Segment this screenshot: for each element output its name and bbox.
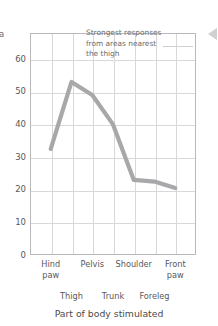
y-tick-label: 10 xyxy=(2,218,26,227)
annotation-line-3: the thigh xyxy=(86,49,186,60)
x-tick-label: Foreleg xyxy=(133,291,177,302)
x-tick-label: Hindpaw xyxy=(29,259,73,280)
annotation-strongest-responses: Strongest responses from areas nearest t… xyxy=(86,28,186,60)
chart-figure: a 0102030405060 Strongest responses from… xyxy=(0,0,218,326)
x-tick-label: Frontpaw xyxy=(153,259,197,280)
y-axis-label-clipped: a xyxy=(0,26,9,42)
x-tick-label: Pelvis xyxy=(70,259,114,270)
annotation-line-1: Strongest responses xyxy=(86,28,186,39)
y-tick-label: 20 xyxy=(2,185,26,194)
y-tick-label: 0 xyxy=(2,251,26,260)
y-tick-label: 60 xyxy=(2,55,26,64)
x-tick-label: Shoulder xyxy=(112,259,156,270)
annotation-line-2: from areas nearest xyxy=(86,39,186,50)
chevron-left-icon xyxy=(206,27,218,41)
data-series-line xyxy=(30,33,196,255)
x-tick-label: Trunk xyxy=(91,291,135,302)
x-tick-label: Thigh xyxy=(50,291,94,302)
x-axis-title: Part of body stimulated xyxy=(0,308,218,319)
y-tick-label: 50 xyxy=(2,87,26,96)
annotation-leader-line xyxy=(163,46,193,47)
y-tick-label: 40 xyxy=(2,120,26,129)
y-tick-label: 30 xyxy=(2,153,26,162)
